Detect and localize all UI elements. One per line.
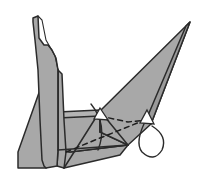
- origami-diagram: [0, 0, 198, 182]
- origami-illustration: [0, 0, 198, 182]
